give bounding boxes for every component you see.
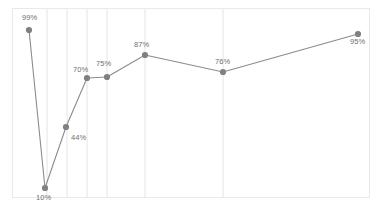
data-point-label: 70% bbox=[73, 66, 88, 74]
data-point-label: 44% bbox=[71, 134, 86, 142]
data-point-marker[interactable] bbox=[104, 74, 110, 80]
data-point-marker[interactable] bbox=[220, 69, 226, 75]
series-line bbox=[29, 30, 358, 188]
data-point-marker[interactable] bbox=[84, 75, 90, 81]
data-point-label: 87% bbox=[134, 41, 149, 49]
chart-canvas bbox=[0, 0, 377, 212]
data-point-label: 95% bbox=[350, 38, 365, 46]
data-point-label: 10% bbox=[36, 194, 51, 202]
data-point-marker[interactable] bbox=[142, 52, 148, 58]
line-chart: 99%10%44%70%75%87%76%95% bbox=[0, 0, 377, 212]
data-point-label: 99% bbox=[22, 14, 37, 22]
data-point-marker[interactable] bbox=[63, 124, 69, 130]
data-point-marker[interactable] bbox=[26, 27, 32, 33]
data-point-label: 75% bbox=[96, 60, 111, 68]
data-markers bbox=[26, 27, 361, 191]
gridlines bbox=[47, 9, 223, 197]
data-point-marker[interactable] bbox=[42, 185, 48, 191]
data-point-label: 76% bbox=[215, 58, 230, 66]
data-line bbox=[29, 30, 358, 188]
